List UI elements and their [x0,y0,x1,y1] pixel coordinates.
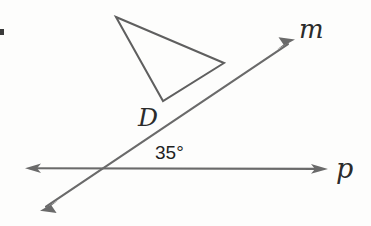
line-m-upper-right-arrowhead [277,37,295,49]
line-m-lower-left-arrowhead [40,201,58,213]
line-p-group [25,163,328,173]
angle-measure-label: 35° [155,143,184,162]
line-p-label: p [336,155,353,182]
geometry-figure: m p D 35° [0,0,371,226]
line-m-shaft [46,44,288,207]
line-m-label: m [299,16,324,42]
line-p-shaft [30,168,320,169]
triangle-shape [116,17,224,101]
point-d-label: D [138,105,158,130]
line-m-group [40,37,295,213]
